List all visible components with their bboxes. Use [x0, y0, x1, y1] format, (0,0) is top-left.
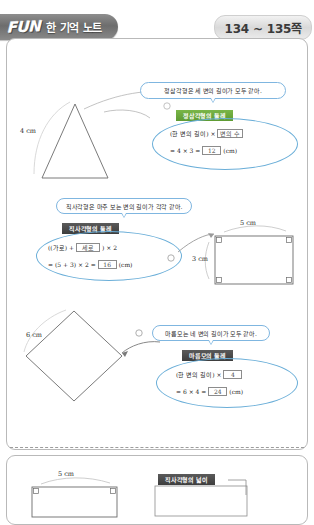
panel-divider: [10, 447, 304, 448]
triangle-hint-text: 정삼각형은 세 변의 길이가 모두 같아.: [164, 86, 261, 95]
triangle-formula-line2-pre: = 4 × 3 =: [170, 147, 200, 154]
triangle-formula-line2: = 4 × 3 = 12 (cm): [170, 146, 237, 155]
next-section-band: 직사각형의 넓이: [158, 474, 215, 485]
rhombus-hint-bubble: 마름모는 네 변의 길이가 모두 같아.: [152, 325, 270, 341]
rhombus-formula-line2-pre: = 6 × 4 =: [176, 388, 206, 395]
header-title: 한 기억 노트: [46, 19, 102, 35]
rhombus-side-label: 6 cm: [26, 331, 42, 339]
rhombus-formula-unit: (cm): [229, 388, 243, 395]
rectangle-answer-box-1[interactable]: 세로: [76, 243, 100, 252]
fun-logo: FUN: [6, 19, 42, 36]
rectangle-formula-line1-post: ) × 2: [102, 244, 117, 251]
rhombus-formula-line1-pre: (한 변의 길이) ×: [176, 370, 221, 379]
rectangle-width-label: 5 cm: [240, 219, 256, 227]
next-content-panel: [6, 455, 308, 525]
rhombus-answer-box-1[interactable]: 4: [223, 370, 242, 379]
triangle-formula-line1-pre: (한 변의 길이) ×: [170, 129, 215, 138]
rectangle-formula-line1: ((가로) + 세로 ) × 2: [48, 243, 117, 252]
rhombus-formula-line2: = 6 × 4 = 24 (cm): [176, 387, 243, 396]
triangle-formula-ellipse: [152, 118, 298, 170]
page-range-badge: 134 ~ 135쪽: [214, 15, 312, 40]
rectangle-formula-line1-pre: ((가로) +: [48, 243, 74, 252]
rectangle-formula-unit: (cm): [119, 261, 133, 268]
triangle-formula-unit: (cm): [223, 147, 237, 154]
rectangle-formula-ellipse: [36, 231, 182, 281]
page-range-label: 134 ~ 135쪽: [224, 19, 302, 36]
rectangle-hint-bubble: 직사각형은 마주 보는 변의 길이가 각각 같아.: [56, 198, 192, 214]
rhombus-formula-line1: (한 변의 길이) × 4: [176, 370, 242, 379]
rectangle-formula-line2: = (5 + 3) × 2 = 16 (cm): [48, 260, 132, 269]
bubble-tail: [210, 98, 216, 103]
bubble-tail: [208, 340, 214, 345]
rhombus-hint-text: 마름모는 네 변의 길이가 모두 같아.: [165, 329, 256, 338]
triangle-answer-box-2[interactable]: 12: [202, 146, 221, 155]
rhombus-answer-box-2[interactable]: 24: [208, 387, 227, 396]
rhombus-formula-ellipse: [156, 358, 298, 408]
next-section-dim-label: 5 cm: [58, 470, 74, 478]
triangle-side-label: 4 cm: [20, 127, 36, 135]
rectangle-height-label: 3 cm: [192, 255, 208, 263]
header-tab: FUN 한 기억 노트: [0, 14, 118, 40]
triangle-formula-line1: (한 변의 길이) × 변의 수: [170, 129, 243, 138]
triangle-answer-box-1[interactable]: 변의 수: [217, 129, 243, 138]
next-section-band-label: 직사각형의 넓이: [165, 475, 208, 484]
rectangle-hint-text: 직사각형은 마주 보는 변의 길이가 각각 같아.: [66, 202, 182, 211]
triangle-hint-bubble: 정삼각형은 세 변의 길이가 모두 같아.: [140, 82, 286, 99]
rectangle-formula-line2-pre: = (5 + 3) × 2 =: [48, 261, 96, 268]
rectangle-answer-box-2[interactable]: 16: [98, 260, 117, 269]
bubble-tail: [121, 213, 127, 218]
